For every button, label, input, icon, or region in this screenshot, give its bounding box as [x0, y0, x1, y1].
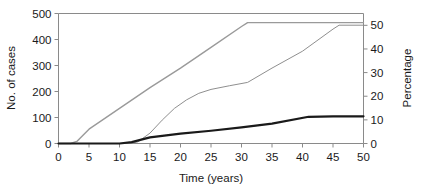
y2-tick-label: 20	[371, 90, 384, 102]
x-axis-tick-labels: 05101520253035404550	[55, 151, 370, 163]
x-tick-label: 30	[235, 151, 248, 163]
plot-border	[59, 14, 364, 144]
x-tick-label: 40	[296, 151, 309, 163]
y-tick-label: 0	[45, 138, 51, 150]
y-axis-left-ticks	[55, 14, 59, 144]
y-tick-label: 500	[32, 8, 51, 20]
data-series-group	[59, 23, 364, 144]
x-tick-label: 35	[266, 151, 279, 163]
x-tick-label: 25	[205, 151, 218, 163]
chart-svg: 05101520253035404550 0100200300400500 01…	[0, 0, 422, 187]
y-tick-label: 100	[32, 112, 51, 124]
y2-tick-label: 40	[371, 43, 384, 55]
x-tick-label: 5	[86, 151, 92, 163]
y-axis-right-title: Percentage	[401, 49, 413, 108]
x-tick-label: 15	[144, 151, 157, 163]
y-axis-left-title: No. of cases	[5, 46, 17, 110]
x-tick-label: 50	[357, 151, 370, 163]
y-axis-right-tick-labels: 01020304050	[371, 19, 384, 149]
y2-tick-label: 10	[371, 114, 384, 126]
x-tick-label: 10	[113, 151, 126, 163]
series-lower-percentage-curve	[59, 116, 364, 143]
series-middle-cumulative-cases	[59, 25, 364, 143]
y2-tick-label: 50	[371, 19, 384, 31]
y2-tick-label: 30	[371, 67, 384, 79]
x-tick-label: 45	[327, 151, 340, 163]
y-axis-right-ticks	[364, 25, 368, 143]
y-axis-left-tick-labels: 0100200300400500	[32, 8, 51, 150]
x-tick-label: 20	[174, 151, 187, 163]
y-tick-label: 300	[32, 60, 51, 72]
y-tick-label: 200	[32, 86, 51, 98]
x-axis-title: Time (years)	[179, 172, 243, 184]
plot-frame	[59, 14, 364, 144]
y-tick-label: 400	[32, 34, 51, 46]
x-tick-label: 0	[55, 151, 61, 163]
chart-figure: 05101520253035404550 0100200300400500 01…	[0, 0, 422, 187]
y2-tick-label: 0	[371, 138, 377, 150]
